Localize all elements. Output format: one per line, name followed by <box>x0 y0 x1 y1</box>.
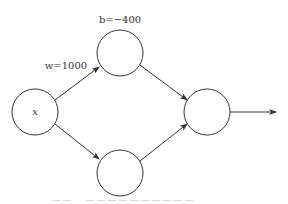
caption-glyph <box>141 200 149 204</box>
diagram-svg: x w=1000 b=−400 <box>0 0 288 204</box>
caption-glyph <box>174 200 182 204</box>
hidden-node-top <box>97 30 143 76</box>
caption-glyph <box>97 200 105 204</box>
edge-hidden-top-to-output <box>140 65 187 100</box>
edge-hidden-bottom-to-output <box>140 124 187 161</box>
output-node <box>184 89 230 135</box>
neural-network-diagram: x w=1000 b=−400 <box>0 0 288 204</box>
caption-glyph <box>130 200 138 204</box>
bias-label: b=−400 <box>99 14 141 25</box>
caption-glyph <box>86 200 94 204</box>
caption-glyph <box>163 200 171 204</box>
caption-glyph <box>108 200 116 204</box>
caption-glyph <box>152 200 160 204</box>
caption-glyph <box>52 200 60 204</box>
caption-glyph <box>185 200 193 204</box>
edge-input-to-hidden-top <box>55 67 99 100</box>
caption-glyph <box>119 200 127 204</box>
weight-label: w=1000 <box>45 60 87 71</box>
caption-glyph <box>63 200 71 204</box>
hidden-node-bottom <box>97 150 143 196</box>
input-node-label: x <box>32 106 38 117</box>
figure-caption-clipped <box>52 199 202 204</box>
edge-input-to-hidden-bottom <box>55 124 99 159</box>
